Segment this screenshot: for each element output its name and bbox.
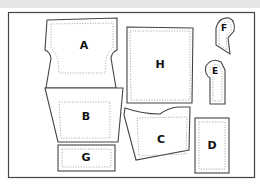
piece-g: G bbox=[58, 145, 115, 171]
piece-label-d: D bbox=[207, 139, 216, 152]
piece-label-f: F bbox=[221, 23, 227, 33]
piece-d: D bbox=[195, 118, 229, 173]
piece-label-g: G bbox=[81, 151, 90, 164]
piece-e: E bbox=[206, 60, 226, 104]
piece-h: H bbox=[127, 27, 193, 103]
piece-label-h: H bbox=[155, 58, 164, 71]
piece-label-c: C bbox=[157, 133, 165, 146]
piece-f: F bbox=[216, 18, 234, 54]
piece-label-e: E bbox=[212, 66, 218, 76]
piece-c: C bbox=[124, 107, 190, 160]
piece-a: A bbox=[45, 18, 117, 88]
piece-b: B bbox=[45, 88, 123, 142]
piece-label-a: A bbox=[80, 39, 89, 52]
pattern-layout-diagram: A B G H C D E F bbox=[0, 0, 260, 185]
piece-label-b: B bbox=[82, 110, 90, 123]
